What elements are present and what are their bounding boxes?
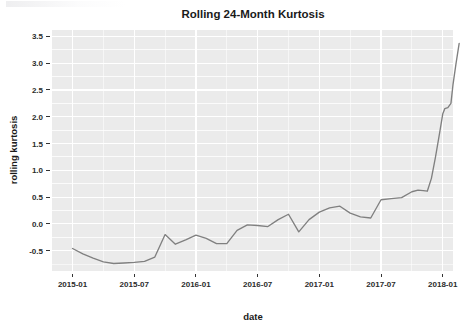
chart-container: Rolling 24-Month Kurtosis -0.50.00.51.01… <box>0 0 466 331</box>
x-tick-label: 2015-07 <box>120 280 150 289</box>
x-tick-label: 2016-07 <box>243 280 273 289</box>
x-tick-label: 2016-01 <box>181 280 211 289</box>
y-tick-label: 1.5 <box>32 140 44 149</box>
y-tick-label: 2.5 <box>32 86 44 95</box>
x-tick-label: 2017-07 <box>366 280 396 289</box>
x-tick-label: 2017-01 <box>305 280 335 289</box>
y-tick-label: 0.0 <box>32 220 44 229</box>
x-tick-label: 2015-01 <box>58 280 88 289</box>
plot-panel-background <box>52 30 453 271</box>
y-tick-label: -0.5 <box>29 247 43 256</box>
y-tick-label: 3.5 <box>32 32 44 41</box>
y-axis-title: rolling kurtosis <box>8 116 19 185</box>
x-tick-label: 2018-01 <box>428 280 458 289</box>
chart-title: Rolling 24-Month Kurtosis <box>181 8 324 20</box>
y-tick-label: 0.5 <box>32 193 44 202</box>
y-tick-label: 3.0 <box>32 59 44 68</box>
rolling-kurtosis-line-chart: Rolling 24-Month Kurtosis -0.50.00.51.01… <box>0 0 466 331</box>
x-axis-title: date <box>243 311 263 322</box>
y-tick-label: 1.0 <box>32 166 44 175</box>
y-tick-label: 2.0 <box>32 113 44 122</box>
